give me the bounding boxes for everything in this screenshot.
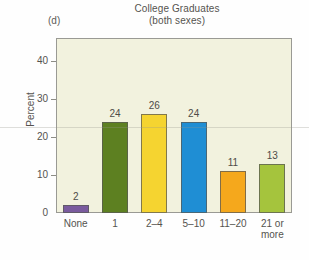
bar-value-label: 24	[174, 108, 214, 119]
bar	[181, 122, 207, 213]
y-tick-label: 30	[22, 93, 48, 104]
chart-title-line2: (both sexes)	[62, 15, 292, 27]
y-tick-mark	[51, 137, 56, 138]
chart-title: College Graduates (both sexes)	[62, 3, 292, 26]
bar-value-label: 13	[252, 150, 292, 161]
y-tick-label: 20	[22, 131, 48, 142]
bar	[141, 114, 167, 213]
y-tick-label: 40	[22, 55, 48, 66]
panel-label: (d)	[48, 15, 60, 26]
bar	[259, 164, 285, 213]
chart-figure: College Graduates (both sexes) (d) Perce…	[0, 0, 309, 260]
y-tick-label: 10	[22, 169, 48, 180]
y-tick-mark	[51, 61, 56, 62]
plot-area	[56, 38, 292, 213]
x-tick-label: 21 or more	[248, 218, 296, 240]
bar-value-label: 24	[95, 108, 135, 119]
y-tick-mark	[51, 175, 56, 176]
bar	[220, 171, 246, 213]
bar-value-label: 26	[134, 100, 174, 111]
bar-value-label: 2	[56, 191, 96, 202]
y-tick-mark	[51, 99, 56, 100]
bar	[102, 122, 128, 213]
y-tick-label: 0	[22, 207, 48, 218]
bar	[63, 205, 89, 213]
chart-title-line1: College Graduates	[62, 3, 292, 15]
bar-value-label: 11	[213, 157, 253, 168]
